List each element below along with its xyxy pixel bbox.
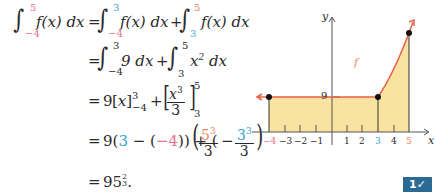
answer-badge: 1✓ bbox=[403, 177, 432, 192]
integrand: x2 dx bbox=[190, 52, 227, 70]
function-graph: y x f 9 −4 −3 −2 −1 1 2 3 4 5 bbox=[238, 0, 435, 194]
graph-svg bbox=[238, 0, 435, 194]
fraction-x3-over-3: x3 3 bbox=[167, 83, 185, 118]
integral-sign: ∫ bbox=[97, 4, 108, 34]
function-label: f bbox=[354, 56, 358, 69]
upper-limit: 5 bbox=[30, 2, 36, 13]
lower-limit: 3 bbox=[190, 28, 196, 39]
point-minus4 bbox=[266, 94, 272, 100]
integrand: f(x) dx bbox=[36, 13, 85, 31]
upper-limit: 5 bbox=[182, 40, 188, 51]
equation-block: ∫ −4 5 f(x) dx = ∫ −4 3 f(x) dx + ∫ 3 5 … bbox=[0, 0, 260, 194]
integral-sign: ∫ bbox=[167, 42, 178, 72]
upper-limit: 3 bbox=[113, 2, 119, 13]
x-tick-label: 2 bbox=[359, 136, 365, 146]
upper-limit: 3 bbox=[113, 40, 119, 51]
area-fill bbox=[269, 33, 409, 132]
x-tick-label: −3 bbox=[279, 136, 292, 146]
x-tick-label: −1 bbox=[310, 136, 323, 146]
y-axis-label: y bbox=[322, 10, 328, 23]
integral-sign: ∫ bbox=[13, 4, 24, 34]
integral-sign: ∫ bbox=[179, 4, 190, 34]
bracket-x: [x] bbox=[112, 92, 132, 110]
y-tick-label-9: 9 bbox=[321, 90, 327, 101]
bracket-lower: −4 bbox=[132, 102, 147, 113]
x-tick-label: −2 bbox=[294, 136, 307, 146]
point-3 bbox=[375, 94, 381, 100]
x-tick-label: −4 bbox=[263, 136, 276, 146]
x-tick-label: 1 bbox=[344, 136, 350, 146]
x-tick-label: 5 bbox=[406, 136, 412, 146]
minus-sign: − bbox=[221, 132, 234, 150]
result: 9523. bbox=[103, 173, 132, 191]
integrand: 9 dx bbox=[121, 52, 153, 70]
equals-sign: = bbox=[88, 173, 101, 191]
lower-limit: 3 bbox=[178, 68, 184, 79]
x-tick-label: 3 bbox=[375, 136, 381, 146]
point-5 bbox=[406, 30, 412, 36]
bracket-upper: 3 bbox=[132, 90, 138, 101]
fraction-5-cubed: 53 3 bbox=[199, 124, 218, 159]
upper-limit: 5 bbox=[194, 2, 200, 13]
equals-sign: = bbox=[88, 92, 101, 110]
integrand: f(x) dx bbox=[120, 13, 169, 31]
bracket-upper: 5 bbox=[194, 80, 200, 91]
x-tick-label: 4 bbox=[391, 136, 397, 146]
x-tick-labels: −4 −3 −2 −1 1 2 3 4 5 bbox=[238, 136, 435, 150]
integral-sign: ∫ bbox=[97, 42, 108, 72]
equals-sign: = bbox=[88, 132, 101, 150]
plus-sign: + bbox=[150, 92, 163, 110]
